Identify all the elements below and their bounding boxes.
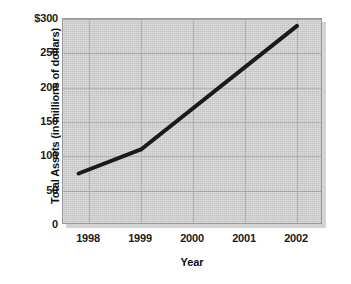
x-axis-title: Year <box>62 256 322 268</box>
y-axis-title: Total Assets (in millions of dollars) <box>49 23 61 209</box>
y-axis-title-wrapper: Total Assets (in millions of dollars) <box>24 0 38 240</box>
x-axis-tick-label: 1998 <box>76 232 100 244</box>
plot-area <box>62 18 322 224</box>
x-axis-tick-label: 2001 <box>232 232 256 244</box>
x-axis-tick-label: 1999 <box>128 232 152 244</box>
x-axis-tick-label: 2002 <box>284 232 308 244</box>
x-axis-tick-label: 2000 <box>180 232 204 244</box>
data-series-line <box>63 19 322 224</box>
chart-figure: 050100150200250$300 Total Assets (in mil… <box>0 0 351 284</box>
